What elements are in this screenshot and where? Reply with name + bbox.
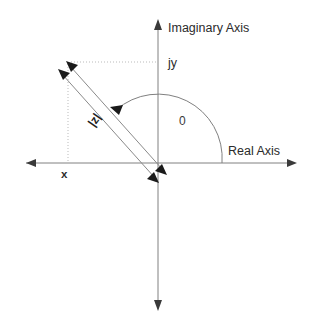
vector-line-lower	[62, 74, 155, 178]
vector-lower-bottom-arrowhead	[147, 172, 159, 183]
imaginary-axis-label: Imaginary Axis	[168, 22, 249, 35]
real-component-label: x	[61, 169, 67, 181]
real-axis-left-arrowhead	[26, 159, 36, 167]
vector-upper-bottom-arrowhead	[155, 164, 167, 175]
modulus-vector-group	[58, 61, 167, 183]
angle-arc-group	[110, 94, 222, 163]
real-axis-label: Real Axis	[228, 145, 280, 158]
angle-label: 0	[179, 115, 186, 127]
imaginary-axis-top-arrowhead	[154, 19, 162, 30]
real-axis-right-arrowhead	[287, 159, 297, 167]
vector-line-upper	[70, 66, 163, 170]
complex-plane-diagram: Imaginary Axis Real Axis jy x 0 |z|	[0, 0, 315, 328]
diagram-canvas	[0, 0, 315, 328]
imaginary-axis-bottom-arrowhead	[154, 300, 162, 311]
projection-lines-group	[68, 62, 158, 163]
imaginary-component-label: jy	[168, 57, 177, 70]
